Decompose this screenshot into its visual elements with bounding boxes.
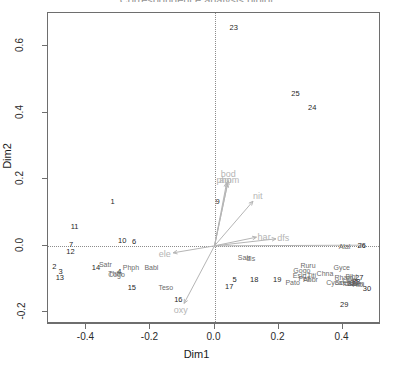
chart-figure: Correspondence analysis biplot 123456791…	[0, 0, 393, 366]
y-axis-tick	[42, 45, 47, 46]
x-axis-tick	[214, 324, 215, 329]
y-axis-tick-label: 0.4	[14, 105, 25, 119]
page-title: Correspondence analysis biplot	[0, 0, 393, 2]
variable-arrow-label: dfs	[277, 233, 289, 242]
variable-arrow-line	[215, 181, 229, 246]
site-point-label: 9	[216, 198, 220, 206]
variable-arrow-head	[253, 237, 257, 240]
site-point-label: 1	[111, 198, 115, 206]
y-axis-label: Dim2	[1, 126, 13, 186]
y-axis-tick	[42, 311, 47, 312]
variable-arrow-head	[252, 201, 253, 205]
y-axis-tick	[42, 112, 47, 113]
y-axis-tick-label: 0.6	[14, 38, 25, 52]
x-axis-tick-label: 0.4	[335, 331, 349, 342]
species-point-label: Gyce	[333, 264, 349, 271]
x-axis-tick	[278, 324, 279, 329]
species-point-label: Babl	[144, 264, 158, 271]
species-point-label: Phph	[123, 263, 139, 270]
x-axis-tick	[149, 324, 150, 329]
y-axis-tick	[42, 245, 47, 246]
site-point-label: 12	[66, 248, 74, 256]
variable-arrow-line	[215, 183, 228, 246]
variable-arrow-line	[173, 246, 214, 253]
site-point-label: 16	[174, 296, 182, 304]
x-axis-label: Dim1	[0, 348, 393, 360]
site-point-label: 23	[230, 24, 238, 32]
species-point-label: Chna	[317, 270, 334, 277]
species-point-label: Pato	[285, 278, 299, 285]
site-point-label: 11	[71, 223, 79, 231]
species-point-label: dis	[246, 254, 255, 261]
variable-arrow-label: nit	[253, 191, 263, 200]
site-point-label: 10	[118, 237, 126, 245]
variable-arrow-head	[272, 239, 276, 241]
site-point-label: 29	[340, 301, 348, 309]
species-point-label: Alal	[339, 243, 351, 250]
x-axis-tick-label: 0.2	[271, 331, 285, 342]
x-axis-tick-label: 0.0	[207, 331, 221, 342]
site-point-label: 24	[308, 104, 316, 112]
variable-arrow-head	[184, 301, 188, 304]
site-point-label: 18	[250, 276, 258, 284]
x-axis-tick	[342, 324, 343, 329]
site-point-label: 25	[291, 91, 299, 99]
variable-arrow-line	[184, 246, 214, 304]
variable-arrow-head	[173, 250, 177, 252]
variable-arrow-line	[215, 183, 227, 246]
y-axis-tick-label: 0.2	[14, 171, 25, 185]
variable-arrow-label: amm	[219, 176, 239, 185]
species-point-label: Albi	[353, 281, 365, 288]
species-point-label: Cogo	[108, 271, 125, 278]
horizontal-reference-line	[48, 246, 379, 247]
x-axis-tick-label: -0.4	[77, 331, 94, 342]
variable-arrow-line	[215, 237, 257, 246]
site-point-label: 17	[225, 284, 233, 292]
variable-arrow-head	[173, 253, 177, 254]
variable-arrow-label: ele	[159, 250, 171, 259]
species-point-label: Satr	[99, 261, 112, 268]
variable-arrow-head	[252, 236, 256, 237]
plot-area: 1234567910111213141516171819232425262728…	[48, 13, 379, 322]
variable-arrow-label: oxy	[174, 306, 188, 315]
site-point-label: 15	[128, 284, 136, 292]
species-point-label: Teso	[158, 283, 173, 290]
site-point-label: 19	[273, 276, 281, 284]
variable-arrow-label: har	[258, 232, 271, 241]
y-axis-tick-label: 0.0	[14, 238, 25, 252]
variable-arrow-head	[272, 237, 276, 238]
site-point-label: 6	[132, 238, 136, 246]
vertical-reference-line	[215, 13, 216, 322]
site-point-label: 13	[56, 274, 64, 282]
y-axis-tick-label: -0.2	[16, 303, 27, 320]
plot-panel: 1234567910111213141516171819232425262728…	[47, 12, 380, 323]
variable-arrow-head	[249, 201, 253, 203]
y-axis-tick	[42, 178, 47, 179]
variable-arrow-line	[215, 201, 253, 246]
site-point-label: 2	[52, 263, 56, 271]
x-axis-tick-label: -0.2	[141, 331, 158, 342]
site-point-label: 26	[358, 242, 366, 250]
x-axis-tick	[85, 324, 86, 329]
